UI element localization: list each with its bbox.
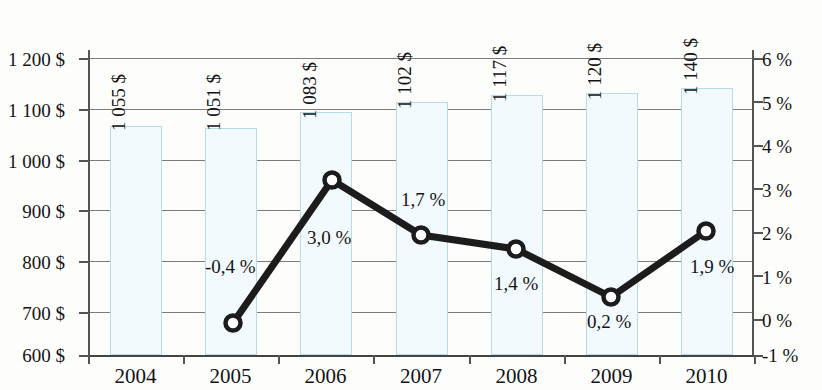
line-label-2009: 0,2 % (587, 312, 631, 331)
line-label-2008: 1,4 % (494, 274, 538, 293)
x-axis-label-2006: 2006 (278, 366, 373, 387)
line-label-2007: 1,7 % (401, 190, 445, 209)
x-axis-label-2007: 2007 (373, 366, 469, 387)
x-axis-label-2009: 2009 (564, 366, 659, 387)
data-point-2005 (226, 316, 241, 331)
x-axis-label-2005: 2005 (183, 366, 278, 387)
x-axis-label-2010: 2010 (659, 366, 754, 387)
growth-rate-line (233, 180, 706, 323)
chart-container: 1 200 $ 1 100 $ 1 000 $ 900 $ 800 $ 700 … (0, 0, 822, 390)
line-label-2005: -0,4 % (205, 257, 256, 276)
line-label-2006: 3,0 % (307, 228, 351, 247)
data-point-2009 (604, 290, 619, 305)
data-point-2007 (414, 228, 429, 243)
x-axis-label-2008: 2008 (469, 366, 564, 387)
data-point-2008 (509, 242, 524, 257)
data-point-2010 (699, 224, 714, 239)
x-axis-label-2004: 2004 (88, 366, 183, 387)
line-label-2010: 1,9 % (690, 257, 734, 276)
data-point-2006 (325, 173, 340, 188)
